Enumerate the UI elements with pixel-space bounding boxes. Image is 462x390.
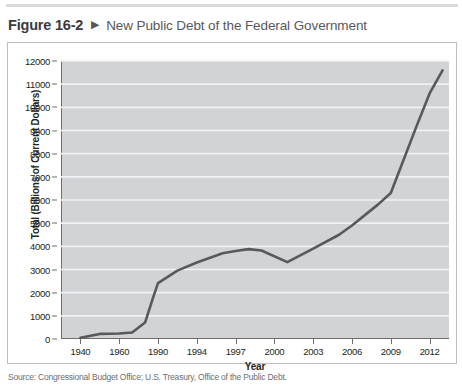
y-tick-mark bbox=[52, 292, 57, 293]
y-tick-mark bbox=[52, 200, 57, 201]
x-tick-mark bbox=[430, 339, 431, 344]
y-tick-mark bbox=[52, 315, 57, 316]
x-tick-label: 2006 bbox=[342, 346, 362, 357]
y-tick-mark bbox=[52, 84, 57, 85]
source-note: Source: Congressional Budget Office; U.S… bbox=[8, 372, 458, 382]
x-tick-mark bbox=[236, 339, 237, 344]
y-tick-label: 7000 bbox=[30, 171, 50, 182]
x-axis-title: Year bbox=[61, 361, 449, 372]
plot-wrapper: 0100020003000400050006000700080009000100… bbox=[61, 61, 449, 339]
x-tick-label: 2003 bbox=[303, 346, 323, 357]
x-tick-label: 1997 bbox=[226, 346, 246, 357]
y-tick-label: 11000 bbox=[26, 79, 50, 90]
figure-root: Figure 16-2 ▶ New Public Debt of the Fed… bbox=[0, 0, 462, 390]
y-tick-mark bbox=[52, 61, 57, 62]
y-tick-mark bbox=[52, 223, 57, 224]
data-line-new-public-debt bbox=[80, 70, 442, 338]
y-tick-mark bbox=[52, 176, 57, 177]
chart-canvas bbox=[61, 61, 449, 339]
chart-frame: Total (Billions of Current Dollars) 0100… bbox=[7, 42, 457, 364]
y-tick-label: 6000 bbox=[30, 195, 50, 206]
x-tick-label: 1940 bbox=[70, 346, 90, 357]
y-tick-label: 5000 bbox=[30, 218, 50, 229]
y-tick-label: 2000 bbox=[30, 287, 50, 298]
y-tick-mark bbox=[52, 269, 57, 270]
y-tick-label: 4000 bbox=[30, 241, 50, 252]
y-tick-label: 9000 bbox=[30, 125, 50, 136]
x-tick-mark bbox=[197, 339, 198, 344]
x-tick-mark bbox=[80, 339, 81, 344]
y-tick-mark bbox=[52, 246, 57, 247]
x-tick-mark bbox=[313, 339, 314, 344]
y-axis-tick-labels: 0100020003000400050006000700080009000100… bbox=[9, 61, 57, 339]
x-tick-label: 2009 bbox=[381, 346, 401, 357]
figure-caption: Figure 16-2 ▶ New Public Debt of the Fed… bbox=[8, 14, 458, 36]
y-tick-label: 12000 bbox=[25, 56, 50, 67]
y-tick-mark bbox=[52, 107, 57, 108]
y-tick-mark bbox=[52, 153, 57, 154]
y-tick-label: 10000 bbox=[25, 102, 50, 113]
x-tick-label: 1994 bbox=[187, 346, 207, 357]
y-tick-mark bbox=[52, 130, 57, 131]
y-tick-mark bbox=[52, 339, 57, 340]
top-rule-divider bbox=[6, 4, 458, 7]
y-tick-label: 1000 bbox=[30, 310, 50, 321]
x-tick-mark bbox=[352, 339, 353, 344]
x-tick-label: 2000 bbox=[264, 346, 284, 357]
x-tick-mark bbox=[274, 339, 275, 344]
x-tick-label: 1990 bbox=[148, 346, 168, 357]
y-tick-label: 3000 bbox=[30, 264, 50, 275]
gridlines-group bbox=[61, 61, 449, 316]
figure-number: Figure 16-2 bbox=[8, 17, 83, 33]
x-tick-mark bbox=[158, 339, 159, 344]
figure-title: New Public Debt of the Federal Governmen… bbox=[106, 18, 367, 33]
x-tick-label: 2012 bbox=[420, 346, 440, 357]
y-tick-label: 8000 bbox=[30, 148, 50, 159]
x-tick-mark bbox=[391, 339, 392, 344]
right-triangle-icon: ▶ bbox=[91, 19, 99, 30]
x-tick-label: 1960 bbox=[109, 346, 129, 357]
x-axis-tick-labels: 1940196019901994199720002003200620092012 bbox=[61, 339, 449, 361]
data-series-group bbox=[80, 70, 442, 338]
x-tick-mark bbox=[119, 339, 120, 344]
y-tick-label: 0 bbox=[45, 334, 50, 345]
